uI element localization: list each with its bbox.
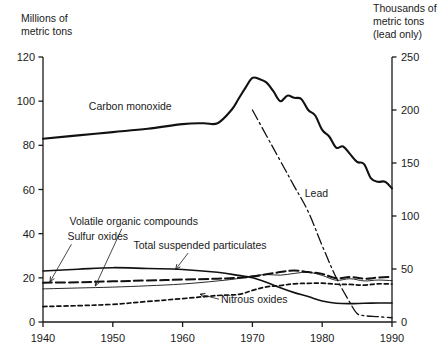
right-axis-title-line2: metric tons <box>373 15 424 27</box>
x-axis-ticks: 194019501960197019801990 <box>31 322 404 344</box>
y-axis-right-ticks: 050100150200250 <box>392 51 419 328</box>
series-label-nitrous-oxides: Nitrous oxides <box>221 293 288 305</box>
x-tick-label: 1980 <box>310 332 334 344</box>
series-label-sulfur-oxides: Sulfur oxides <box>67 230 128 242</box>
left-axis-title-line2: metric tons <box>21 25 72 37</box>
series-label-lead: Lead <box>305 187 329 199</box>
x-tick-label: 1940 <box>31 332 55 344</box>
x-tick-label: 1950 <box>101 332 125 344</box>
y-tick-label-left: 20 <box>23 272 35 284</box>
left-axis-title-line1: Millions of <box>21 12 68 24</box>
series-label-carbon-monoxide: Carbon monoxide <box>89 100 172 112</box>
y-tick-label-left: 80 <box>23 139 35 151</box>
series-label-total-suspended-particulates: Total suspended particulates <box>134 239 267 251</box>
x-tick-label: 1960 <box>170 332 194 344</box>
series-line-carbon-monoxide <box>43 77 392 188</box>
x-tick-label: 1990 <box>380 332 404 344</box>
leader-line <box>176 253 188 269</box>
y-tick-label-right: 100 <box>401 210 419 222</box>
y-tick-label-right: 150 <box>401 157 419 169</box>
y-tick-label-left: 120 <box>17 51 35 63</box>
y-tick-label-right: 200 <box>401 104 419 116</box>
pollutant-emissions-chart: Millions of metric tons Thousands of met… <box>0 0 444 352</box>
y-tick-label-left: 100 <box>17 95 35 107</box>
leader-line <box>50 244 71 282</box>
y-tick-label-left: 0 <box>29 316 35 328</box>
y-axis-left-ticks: 020406080100120 <box>17 51 43 328</box>
right-axis-title-line3: (lead only) <box>373 28 422 40</box>
y-tick-label-left: 60 <box>23 184 35 196</box>
y-tick-label-right: 250 <box>401 51 419 63</box>
series-label-volatile-organic-compounds: Volatile organic compounds <box>70 215 198 227</box>
y-tick-label-right: 0 <box>401 316 407 328</box>
y-tick-label-right: 50 <box>401 263 413 275</box>
chart-canvas: Millions of metric tons Thousands of met… <box>0 0 444 352</box>
y-tick-label-left: 40 <box>23 228 35 240</box>
axis-titles: Millions of metric tons Thousands of met… <box>21 2 437 40</box>
x-tick-label: 1970 <box>240 332 264 344</box>
right-axis-title-line1: Thousands of <box>373 2 437 14</box>
